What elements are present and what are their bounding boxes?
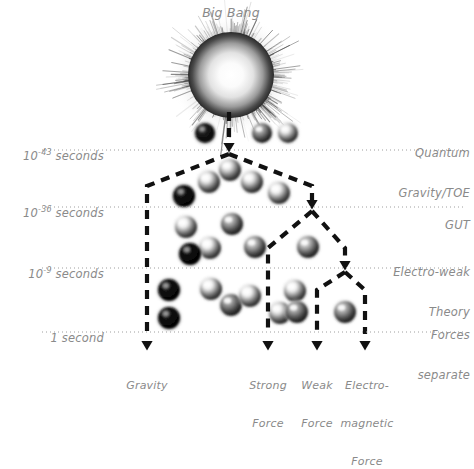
time-label-2-unit: seconds (52, 206, 104, 220)
time-label-2-base: 10 (23, 206, 38, 220)
era-label-electroweak-line1: Electro-weak (362, 266, 470, 279)
diagram-title: Big Bang (181, 6, 281, 20)
force-label-electromagnetic-line1: Electro- (335, 380, 399, 393)
time-label-3-exponent: -9 (43, 266, 51, 275)
time-label-1-unit: seconds (52, 149, 104, 163)
era-label-forces-separate-line1: Forces (372, 329, 470, 342)
time-label-3: 10-9 seconds (0, 253, 104, 294)
time-label-4-base: 1 (50, 331, 58, 345)
time-label-1-exponent: -43 (38, 148, 52, 157)
force-label-gravity-line1: Gravity (112, 380, 182, 393)
time-label-2: 10-36 seconds (0, 192, 104, 233)
force-label-gravity: Gravity (112, 355, 182, 418)
force-label-electromagnetic-line2: magnetic (335, 418, 399, 431)
time-label-1: 10-43 seconds (0, 135, 104, 176)
time-label-1-base: 10 (23, 149, 38, 163)
force-label-electromagnetic-line3: Force (335, 456, 399, 469)
time-label-3-base: 10 (28, 267, 43, 281)
time-label-4-unit: second (58, 331, 104, 345)
time-label-4: 1 second (0, 317, 104, 358)
era-label-quantum-gravity-line1: Quantum (372, 147, 470, 160)
era-label-gut-line1: GUT (372, 219, 470, 232)
time-label-2-exponent: -36 (38, 205, 52, 214)
time-label-3-unit: seconds (52, 267, 104, 281)
force-label-electromagnetic: Electro- magnetic Force (335, 355, 399, 469)
